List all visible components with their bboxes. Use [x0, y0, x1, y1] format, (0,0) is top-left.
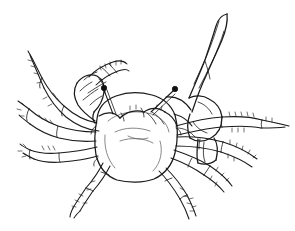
crab-illustration: [0, 0, 295, 231]
left-eye-bulb: [101, 85, 106, 90]
right-eye-bulb: [172, 86, 177, 91]
illustration-canvas: [0, 0, 295, 231]
background: [0, 0, 295, 231]
